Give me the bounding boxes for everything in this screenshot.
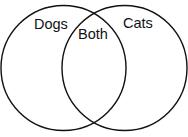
- cats-label: Cats: [123, 15, 153, 31]
- venn-diagram: Dogs Both Cats: [0, 0, 188, 137]
- both-label: Both: [78, 26, 108, 42]
- dogs-label: Dogs: [34, 16, 68, 32]
